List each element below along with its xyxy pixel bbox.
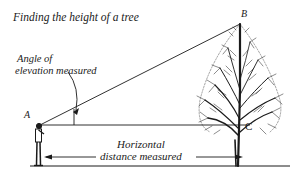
distance-label-line1: Horizontal <box>100 138 182 150</box>
point-c-label: C <box>245 121 252 132</box>
left-arrowhead-icon <box>44 155 52 160</box>
tree-icon <box>197 24 283 166</box>
tree-height-diagram: Finding the height of a tree Angle of el… <box>0 0 300 180</box>
observer-figure <box>34 123 44 165</box>
point-b-label: B <box>241 9 247 19</box>
point-a-label: A <box>24 110 30 120</box>
figure-title: Finding the height of a tree <box>13 12 139 24</box>
horizontal-distance-label: Horizontal distance measured <box>98 138 184 162</box>
distance-label-line2: distance measured <box>100 150 182 162</box>
angle-of-elevation-label: Angle of elevation measured <box>15 53 97 77</box>
angle-label-line2: elevation measured <box>15 65 97 77</box>
angle-label-line1: Angle of <box>15 53 97 65</box>
angle-pointer-curve <box>68 72 77 110</box>
